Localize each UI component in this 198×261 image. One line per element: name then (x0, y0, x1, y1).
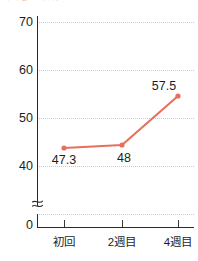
data-label-2: 57.5 (140, 80, 188, 93)
data-label-1: 48 (100, 152, 148, 165)
data-series (0, 0, 198, 261)
line-chart: ◆◆値の変化（cm） 70 60 50 40 0 初回 2週目 4週目 47.3… (0, 0, 198, 261)
data-point-0 (61, 145, 66, 150)
data-point-1 (119, 142, 124, 147)
data-point-2 (175, 93, 180, 98)
series-line (64, 96, 178, 148)
data-label-0: 47.3 (40, 154, 88, 167)
